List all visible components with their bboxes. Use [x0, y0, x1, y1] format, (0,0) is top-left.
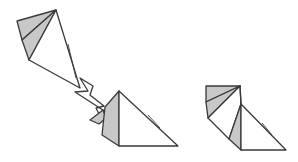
white-triangle	[119, 91, 178, 146]
gray-side-flap	[102, 91, 119, 146]
white-triangle-right	[241, 104, 286, 150]
step-intermediate-model	[90, 91, 178, 146]
origami-diagram	[0, 0, 298, 162]
step-final-model	[206, 86, 286, 150]
step-initial-model	[17, 10, 80, 88]
